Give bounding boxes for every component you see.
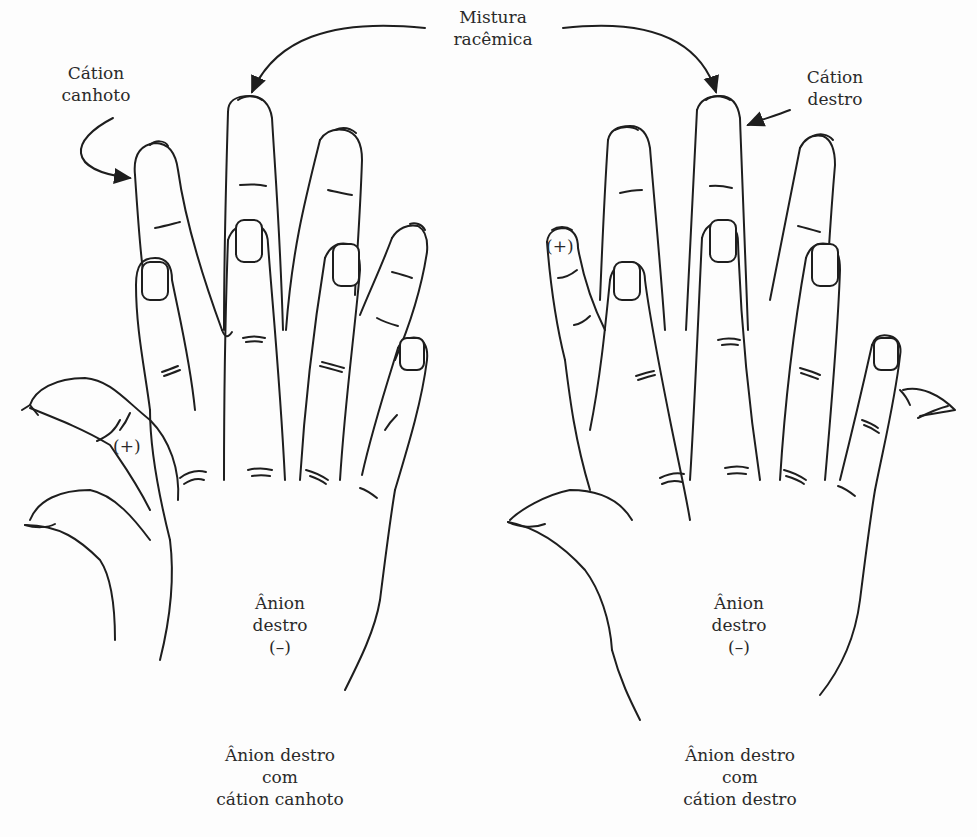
left-caption: Ânion destro com cátion canhoto bbox=[195, 744, 365, 810]
right-cation-arrow bbox=[748, 110, 790, 125]
left-anion-label: Ânion destro (–) bbox=[225, 592, 335, 658]
left-cation-sign: (+) bbox=[113, 436, 141, 456]
racemic-mixture-label: Mistura racêmica bbox=[433, 6, 553, 50]
left-cation-label: Cátion canhoto bbox=[46, 62, 146, 106]
right-cation-sign: (+) bbox=[546, 236, 574, 256]
hands-illustration bbox=[0, 0, 977, 837]
right-cation-label: Cátion destro bbox=[790, 66, 880, 110]
left-cation-arrow bbox=[81, 118, 130, 178]
right-caption: Ânion destro com cátion destro bbox=[660, 744, 820, 810]
diagram-canvas: Mistura racêmica Cátion canhoto Cátion d… bbox=[0, 0, 977, 837]
right-anion-label: Ânion destro (–) bbox=[684, 592, 794, 658]
